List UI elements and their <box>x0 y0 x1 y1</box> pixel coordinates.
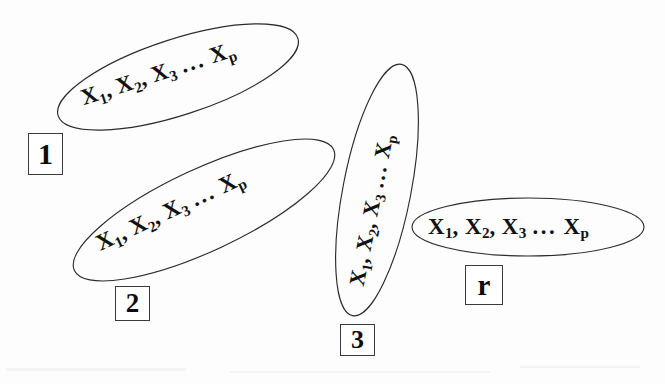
group-r-label-box: r <box>465 265 503 305</box>
group-r-variable-list: X1, X2, X3 ... Xp <box>428 214 589 243</box>
ellipse-outlines-layer <box>0 0 665 384</box>
group-3-label-box: 3 <box>340 324 375 356</box>
group-2-label-box: 2 <box>115 286 150 321</box>
figure-canvas: X1, X2, X3 ... Xp X1, X2, X3 ... Xp X1, … <box>0 0 665 384</box>
group-1-label-box: 1 <box>28 133 63 175</box>
